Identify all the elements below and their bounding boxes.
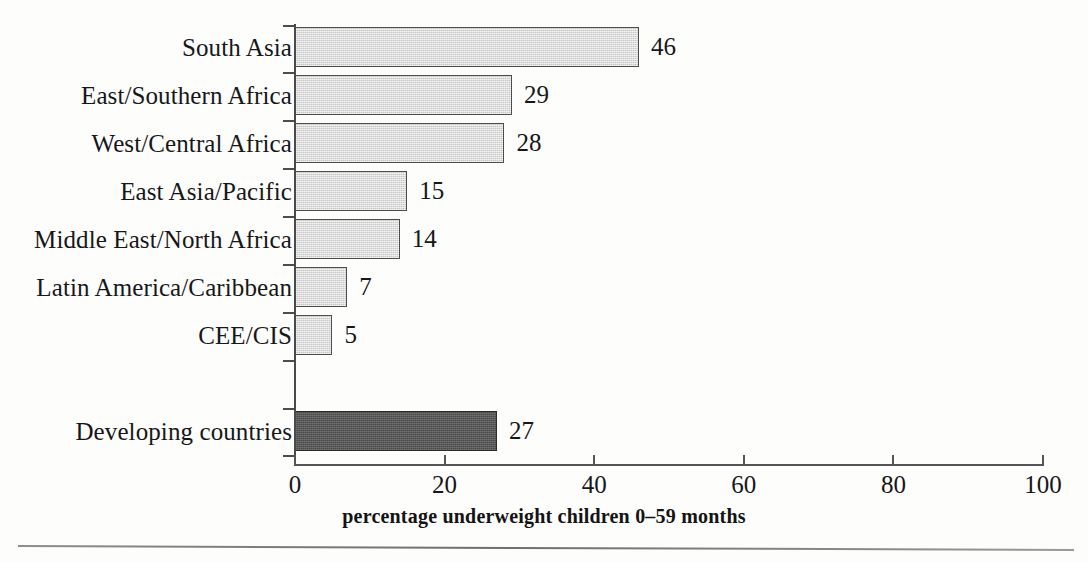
bar-value-label: 46 [651, 26, 676, 69]
bar-chart-figure: South Asia 46 East/Southern Africa 29 We… [0, 0, 1088, 562]
bar-value-label: 7 [359, 266, 372, 309]
y-axis-tick [283, 312, 295, 314]
y-axis-tick [283, 264, 295, 266]
y-axis-tick [283, 25, 295, 27]
category-label: Latin America/Caribbean [36, 266, 292, 309]
category-label: South Asia [182, 26, 292, 69]
bar-developing-countries [295, 411, 497, 451]
chart-row: Middle East/North Africa 14 [0, 218, 1088, 261]
x-axis-title: percentage underweight children 0–59 mon… [0, 505, 1088, 528]
bar-value-label: 28 [516, 122, 541, 165]
chart-row: West/Central Africa 28 [0, 122, 1088, 165]
category-label: East Asia/Pacific [120, 170, 292, 213]
category-label: Developing countries [75, 410, 292, 453]
chart-row-spacer [0, 362, 1088, 405]
chart-row: Latin America/Caribbean 7 [0, 266, 1088, 309]
bar-value-label: 5 [344, 314, 357, 357]
bar-west-central-africa [295, 123, 504, 163]
chart-row: Developing countries 27 [0, 410, 1088, 453]
category-label: CEE/CIS [198, 314, 292, 357]
y-axis-line [294, 24, 296, 465]
x-axis-tick-label: 80 [853, 470, 933, 500]
bar-east-southern-africa [295, 75, 512, 115]
x-axis-tick [593, 455, 595, 466]
x-axis-tick-label: 60 [704, 470, 784, 500]
bar-east-asia-pacific [295, 171, 407, 211]
x-axis-tick-label: 100 [1003, 470, 1083, 500]
bar-value-label: 29 [524, 74, 549, 117]
y-axis-tick [283, 360, 295, 362]
y-axis-tick [283, 72, 295, 74]
x-axis-tick [1042, 455, 1044, 466]
bar-value-label: 15 [419, 170, 444, 213]
chart-row: East/Southern Africa 29 [0, 74, 1088, 117]
category-label: West/Central Africa [91, 122, 292, 165]
x-axis-tick-label: 0 [255, 470, 335, 500]
x-axis-tick-label: 40 [554, 470, 634, 500]
bar-value-label: 27 [509, 410, 534, 453]
chart-row: South Asia 46 [0, 26, 1088, 69]
x-axis-tick [743, 455, 745, 466]
y-axis-tick [283, 168, 295, 170]
bar-latin-america-caribbean [295, 267, 347, 307]
bar-value-label: 14 [412, 218, 437, 261]
x-axis-tick [294, 455, 296, 466]
bar-cee-cis [295, 315, 332, 355]
y-axis-tick [283, 216, 295, 218]
chart-row: CEE/CIS 5 [0, 314, 1088, 357]
x-axis-tick-label: 20 [405, 470, 485, 500]
y-axis-tick [283, 120, 295, 122]
footer-rule [18, 545, 1074, 551]
x-axis-line [294, 464, 1044, 466]
bar-south-asia [295, 27, 639, 67]
y-axis-tick [283, 408, 295, 410]
x-axis-tick [444, 455, 446, 466]
chart-row: East Asia/Pacific 15 [0, 170, 1088, 213]
x-axis-tick [892, 455, 894, 466]
category-label: Middle East/North Africa [34, 218, 292, 261]
bar-middle-east-north-africa [295, 219, 400, 259]
category-label: East/Southern Africa [81, 74, 292, 117]
